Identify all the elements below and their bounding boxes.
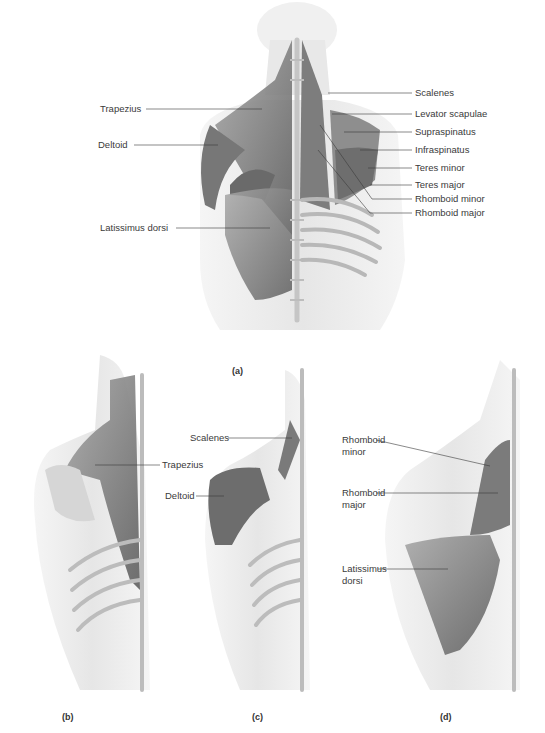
label-rhomboid-major-a: Rhomboid major [415,207,485,219]
label-infraspinatus-a: Infraspinatus [415,144,469,156]
caption-b: (b) [62,712,74,722]
label-teres-minor-a: Teres minor [415,162,465,174]
label-trapezius-a: Trapezius [100,103,141,115]
caption-a: (a) [232,366,243,376]
label-trapezius-b: Trapezius [162,459,203,471]
label-rhomboid-major-d: Rhomboid major [342,487,402,511]
panel-a-figure [134,2,412,330]
panel-b-figure [34,355,160,690]
label-rhomboid-minor-d: Rhomboid minor [342,434,402,458]
label-latissimus-dorsi-a: Latissimus dorsi [100,222,168,234]
label-scalenes-a: Scalenes [415,87,454,99]
label-latissimus-dorsi-d: Latissimus dorsi [342,563,402,587]
label-levator-scapulae-a: Levator scapulae [415,108,487,120]
label-deltoid-c: Deltoid [165,490,195,502]
label-teres-major-a: Teres major [415,179,465,191]
caption-d: (d) [440,712,452,722]
label-deltoid-a: Deltoid [98,139,128,151]
label-scalenes-c: Scalenes [190,432,229,444]
label-supraspinatus-a: Supraspinatus [415,126,476,138]
panel-d-figure [376,360,520,690]
caption-c: (c) [252,712,263,722]
label-rhomboid-minor-a: Rhomboid minor [415,193,485,205]
panel-c-figure [196,370,310,690]
